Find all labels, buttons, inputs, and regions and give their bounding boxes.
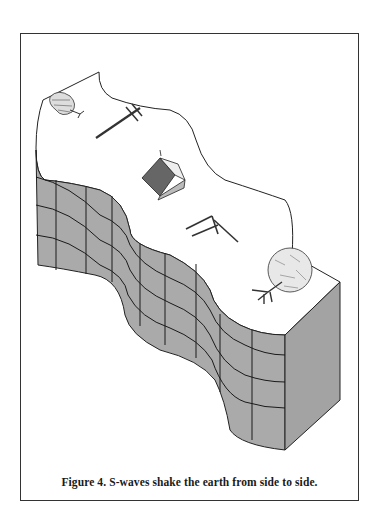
s-wave-illustration <box>0 0 379 524</box>
figure-caption: Figure 4. S-waves shake the earth from s… <box>20 476 359 488</box>
